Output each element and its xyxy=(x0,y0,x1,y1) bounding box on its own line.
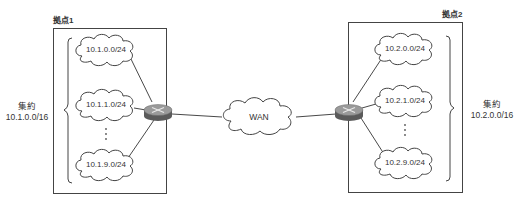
site1-title: 拠点1 xyxy=(53,14,73,25)
link-router1-wan xyxy=(172,114,222,117)
site1-ellipsis xyxy=(105,128,107,140)
site2-summary: 集約 10.2.0.0/16 xyxy=(468,99,516,121)
site2-title: 拠点2 xyxy=(442,8,462,19)
site1-summary: 集約 10.1.0.0/16 xyxy=(3,101,51,123)
site1-network-9-label: 10.1.9.0/24 xyxy=(76,160,136,169)
router1-icon xyxy=(144,105,172,122)
wan-label: WAN xyxy=(239,112,279,122)
link-site2-net9 xyxy=(361,118,384,154)
site2-summary-prefix: 10.2.0.0/16 xyxy=(468,110,516,121)
link-site2-net1 xyxy=(362,104,376,108)
site2-brace xyxy=(446,36,454,181)
site2-ellipsis xyxy=(404,124,406,136)
link-site1-net0 xyxy=(130,57,152,102)
site2-summary-label: 集約 xyxy=(468,99,516,110)
site1-network-0-label: 10.1.0.0/24 xyxy=(76,45,136,54)
site1-summary-prefix: 10.1.0.0/16 xyxy=(3,112,51,123)
site1-summary-label: 集約 xyxy=(3,101,51,112)
site2-network-9-label: 10.2.9.0/24 xyxy=(375,158,435,167)
link-site1-net9 xyxy=(128,120,154,158)
link-wan-router2 xyxy=(296,114,336,117)
site2-network-0-label: 10.2.0.0/24 xyxy=(375,44,435,53)
site2-network-1-label: 10.2.1.0/24 xyxy=(375,96,435,105)
router2-icon xyxy=(335,105,363,122)
site1-network-1-label: 10.1.1.0/24 xyxy=(76,100,136,109)
site1-brace xyxy=(64,38,72,183)
